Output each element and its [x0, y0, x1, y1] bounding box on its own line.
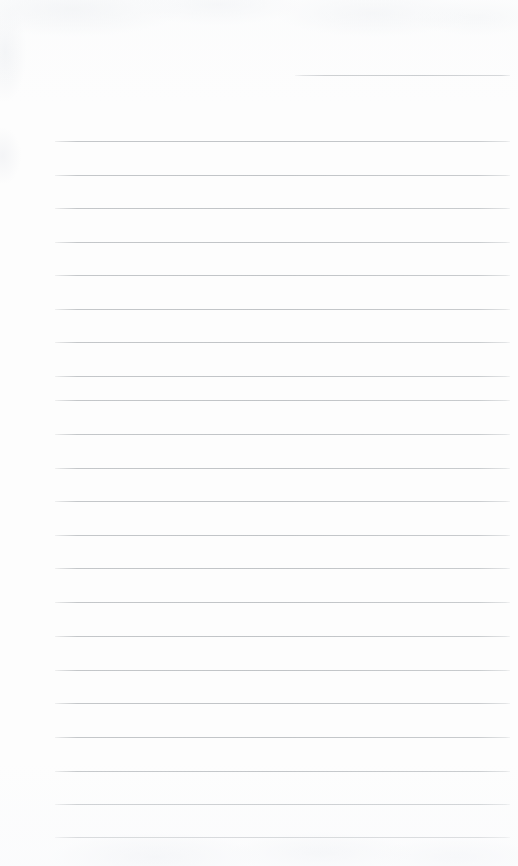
rule-9 — [55, 400, 510, 401]
rule-8 — [55, 376, 510, 377]
rule-19 — [55, 737, 510, 738]
rule-21 — [55, 804, 510, 805]
rule-18 — [55, 703, 510, 704]
rule-22 — [55, 837, 510, 838]
rule-6 — [55, 309, 510, 310]
rule-12 — [55, 501, 510, 502]
rule-3 — [55, 208, 510, 209]
rule-14 — [55, 568, 510, 569]
rule-1 — [55, 141, 510, 142]
rule-7 — [55, 342, 510, 343]
rule-20 — [55, 771, 510, 772]
rule-17 — [55, 670, 510, 671]
rule-11 — [55, 468, 510, 469]
rule-10 — [55, 434, 510, 435]
partial-rule-1 — [295, 75, 510, 76]
rule-2 — [55, 175, 510, 176]
rule-16 — [55, 636, 510, 637]
rule-15 — [55, 602, 510, 603]
notepad-page — [0, 0, 518, 866]
rule-5 — [55, 275, 510, 276]
rule-13 — [55, 535, 510, 536]
rule-4 — [55, 242, 510, 243]
